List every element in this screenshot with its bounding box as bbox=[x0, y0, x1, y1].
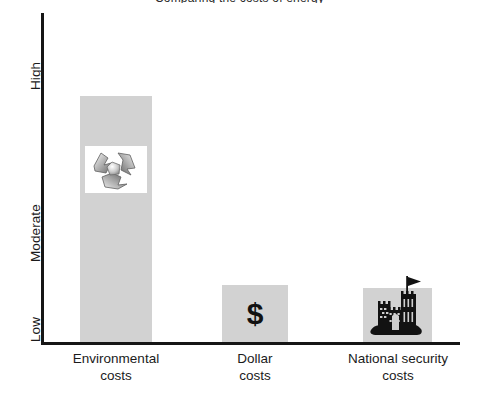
x-tick-label-national-security-line1: National security bbox=[348, 351, 448, 366]
x-tick-label-dollar-line2: costs bbox=[205, 367, 305, 384]
x-tick-label-dollar-line1: Dollar bbox=[237, 351, 272, 366]
bar-environmental-costs: High bbox=[80, 96, 152, 342]
dollar-icon: $ bbox=[222, 296, 288, 332]
y-tick-label-moderate: Moderate bbox=[28, 204, 43, 262]
y-tick-label-high: High bbox=[28, 62, 43, 90]
y-tick-label-low: Low bbox=[28, 317, 43, 342]
castle-icon bbox=[363, 274, 432, 342]
bar-value-dollar: Low bbox=[222, 285, 223, 286]
bar-chart: Comparing the costs of energy High Moder… bbox=[0, 0, 479, 400]
x-tick-label-environmental: Environmental costs bbox=[56, 350, 176, 384]
x-tick-label-environmental-line2: costs bbox=[56, 367, 176, 384]
recycle-icon bbox=[85, 146, 147, 193]
chart-title: Comparing the costs of energy bbox=[0, 0, 479, 3]
x-tick-label-national-security: National security costs bbox=[337, 350, 459, 384]
x-tick-label-environmental-line1: Environmental bbox=[73, 351, 159, 366]
x-tick-label-dollar: Dollar costs bbox=[205, 350, 305, 384]
x-axis-line bbox=[41, 342, 460, 345]
x-tick-label-national-security-line2: costs bbox=[337, 367, 459, 384]
bar-value-environmental: High bbox=[80, 96, 81, 97]
